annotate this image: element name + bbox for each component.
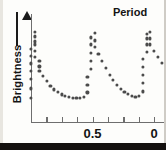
data-point xyxy=(34,35,37,38)
data-point xyxy=(93,32,96,35)
data-point xyxy=(112,79,115,82)
data-point xyxy=(60,93,63,96)
data-point xyxy=(141,90,144,93)
data-point xyxy=(149,43,152,46)
y-axis-label: Brightness xyxy=(11,42,23,106)
x-axis-tick xyxy=(108,117,109,122)
data-point xyxy=(90,67,93,70)
data-point xyxy=(149,31,152,34)
data-point xyxy=(156,55,159,58)
data-point xyxy=(145,50,148,53)
data-point xyxy=(45,80,48,83)
x-axis-tick xyxy=(93,117,94,122)
data-point xyxy=(108,73,111,76)
data-point xyxy=(53,88,56,91)
data-point xyxy=(153,49,156,52)
data-point xyxy=(86,76,89,79)
data-point xyxy=(149,37,152,40)
x-axis-tick xyxy=(154,117,155,122)
data-point xyxy=(86,91,89,94)
data-point xyxy=(82,95,85,98)
data-point xyxy=(34,43,37,46)
x-axis-tick xyxy=(46,117,47,122)
up-arrow-icon xyxy=(16,12,18,46)
x-axis-tick xyxy=(62,117,63,122)
x-axis-tick xyxy=(139,117,140,122)
data-point xyxy=(93,45,96,48)
data-point xyxy=(104,66,107,69)
data-point xyxy=(38,59,41,62)
data-point xyxy=(34,31,37,34)
data-point xyxy=(34,55,37,58)
x-axis-line xyxy=(31,122,164,123)
light-curve-figure: Brightness 0.50 Period xyxy=(0,0,166,150)
data-point xyxy=(101,59,104,62)
data-point xyxy=(41,75,44,78)
data-point xyxy=(145,33,148,36)
data-point xyxy=(90,59,93,62)
data-point xyxy=(97,52,100,55)
data-point xyxy=(38,69,41,72)
x-axis-tick-label: 0.5 xyxy=(84,126,102,141)
data-point xyxy=(38,65,41,68)
x-axis-tick xyxy=(123,117,124,122)
data-point xyxy=(138,94,141,97)
data-point xyxy=(160,61,163,64)
data-point xyxy=(49,84,52,87)
data-point xyxy=(71,96,74,99)
x-axis-tick xyxy=(31,117,32,122)
data-point xyxy=(115,83,118,86)
data-point xyxy=(90,51,93,54)
data-point xyxy=(34,49,37,52)
period-annotation: Period xyxy=(97,5,163,21)
data-point xyxy=(56,90,59,93)
page-right-edge xyxy=(164,0,166,143)
page-bottom-edge xyxy=(0,143,166,150)
data-point xyxy=(86,84,89,87)
data-point xyxy=(90,36,93,39)
x-axis-tick-label: 0 xyxy=(151,126,158,141)
data-point xyxy=(141,65,144,68)
data-point xyxy=(141,82,144,85)
data-point xyxy=(141,73,144,76)
data-point xyxy=(141,57,144,60)
x-axis-tick xyxy=(77,117,78,122)
page-left-edge xyxy=(0,0,3,150)
data-point xyxy=(78,96,81,99)
data-point xyxy=(93,39,96,42)
data-point xyxy=(145,37,148,40)
data-point xyxy=(126,93,129,96)
period-label: Period xyxy=(97,5,163,20)
data-point xyxy=(119,87,122,90)
data-point xyxy=(145,43,148,46)
y-axis-label-group: Brightness xyxy=(6,12,28,112)
